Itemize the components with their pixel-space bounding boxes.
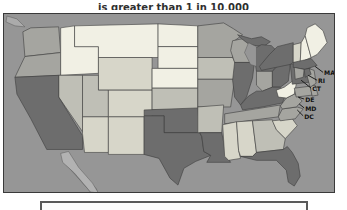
state-ar — [198, 105, 224, 133]
state-ne — [152, 68, 198, 88]
state-wa — [23, 27, 61, 57]
state-ct — [294, 67, 304, 79]
caption-text: is greater than 1 in 10,000 — [98, 2, 249, 10]
callout-label-md: MD — [305, 105, 316, 112]
figure-caption-clipped: is greater than 1 in 10,000 — [0, 0, 347, 10]
state-nd — [158, 24, 198, 47]
state-vt — [293, 43, 301, 63]
callout-label-ri: RI — [318, 77, 325, 84]
state-wy — [98, 58, 152, 91]
figure-page: is greater than 1 in 10,000 — [0, 0, 347, 210]
callout-label-dc: DC — [304, 113, 314, 120]
callout-label-ct: CT — [312, 85, 322, 92]
state-az — [83, 117, 109, 153]
us-choropleth-map: MA RI CT DE MD DC — [3, 13, 335, 193]
legend-box-clipped — [40, 201, 308, 210]
state-ia — [198, 58, 237, 80]
state-ks — [152, 88, 198, 110]
state-nm — [108, 117, 144, 155]
callout-label-ma: MA — [324, 69, 334, 76]
callout-label-de: DE — [305, 96, 314, 103]
state-mo — [198, 79, 235, 107]
us-map-svg: MA RI CT DE MD DC — [4, 14, 334, 192]
state-sd — [158, 47, 198, 69]
